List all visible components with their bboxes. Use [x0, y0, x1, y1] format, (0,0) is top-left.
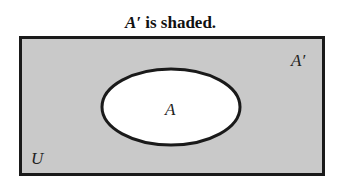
- set-a-label: A: [164, 100, 176, 119]
- venn-diagram: A A′ U: [0, 0, 345, 190]
- universe-label: U: [31, 149, 45, 168]
- complement-label: A′: [290, 51, 305, 70]
